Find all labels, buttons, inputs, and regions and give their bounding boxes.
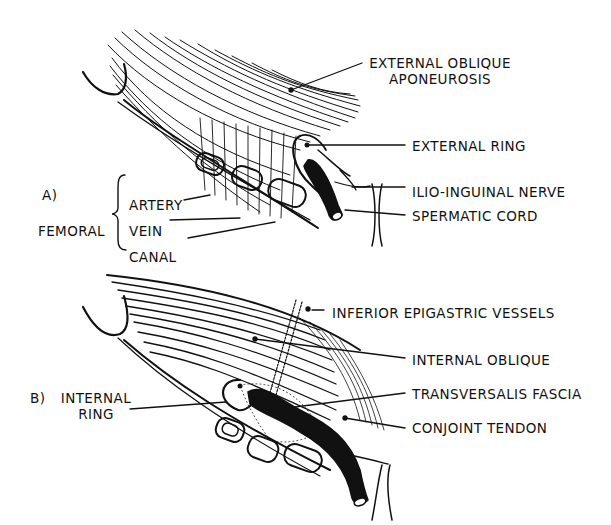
label-femoral-vein: VEIN <box>129 223 162 239</box>
anatomy-illustration <box>0 0 611 525</box>
label-spermatic-cord: SPERMATIC CORD <box>412 208 538 224</box>
label-external-oblique-line1: EXTERNAL OBLIQUE <box>365 55 515 71</box>
label-internal-ring: INTERNAL RING <box>58 390 134 422</box>
label-conjoint-tendon: CONJOINT TENDON <box>412 420 547 436</box>
label-external-ring: EXTERNAL RING <box>412 138 526 154</box>
panel-a-marker: A) <box>42 187 57 203</box>
panel-a-drawing <box>83 30 405 250</box>
panel-b-marker: B) <box>30 390 45 406</box>
label-inferior-epigastric-vessels: INFERIOR EPIGASTRIC VESSELS <box>332 305 555 321</box>
label-femoral-canal: CANAL <box>129 249 177 265</box>
label-external-oblique-line2: APONEUROSIS <box>365 71 515 87</box>
label-ilio-inguinal-nerve: ILIO-INGUINAL NERVE <box>412 184 566 200</box>
label-transversalis-fascia: TRANSVERSALIS FASCIA <box>412 386 582 402</box>
label-internal-ring-line2: RING <box>58 406 134 422</box>
label-femoral-artery: ARTERY <box>129 197 183 213</box>
label-internal-oblique: INTERNAL OBLIQUE <box>412 352 550 368</box>
label-internal-ring-line1: INTERNAL <box>58 390 134 406</box>
label-external-oblique-aponeurosis: EXTERNAL OBLIQUE APONEUROSIS <box>365 55 515 87</box>
femoral-group-label: FEMORAL <box>38 223 105 239</box>
